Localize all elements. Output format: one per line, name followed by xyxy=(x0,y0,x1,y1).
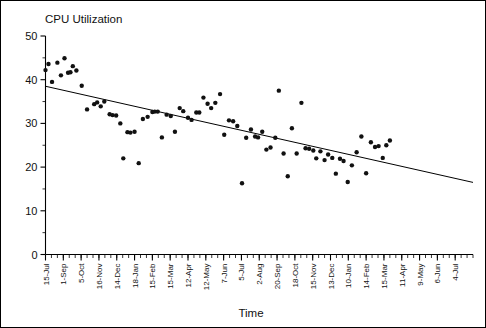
data-point xyxy=(132,130,136,134)
data-point xyxy=(256,135,260,139)
data-point xyxy=(189,118,193,122)
x-tick-label-6-Jun: 6-Jun xyxy=(433,264,442,284)
data-point xyxy=(213,101,217,105)
data-point xyxy=(286,174,290,178)
y-tick-label-50: 50 xyxy=(25,30,37,42)
y-tick-label-40: 40 xyxy=(25,74,37,86)
data-point xyxy=(260,130,264,134)
data-point xyxy=(359,134,363,138)
x-tick-label-15-Mar: 15-Mar xyxy=(380,263,389,289)
x-tick-label-18-Jan: 18-Jan xyxy=(131,264,140,288)
y-tick-label-0: 0 xyxy=(31,249,37,261)
data-point xyxy=(350,163,354,167)
data-point xyxy=(128,130,132,134)
data-point xyxy=(169,114,173,118)
data-point xyxy=(290,126,294,130)
y-tick-label-30: 30 xyxy=(25,117,37,129)
x-tick-label-13-Dec: 13-Dec xyxy=(327,264,336,290)
data-point xyxy=(381,156,385,160)
data-point xyxy=(205,102,209,106)
x-tick-label-14-Feb: 14-Feb xyxy=(362,263,371,289)
chart-title: CPU Utilization xyxy=(45,13,122,25)
data-point xyxy=(156,109,160,113)
data-point xyxy=(164,112,168,116)
x-tick-label-15-Feb: 15-Feb xyxy=(148,263,157,289)
data-point xyxy=(330,156,334,160)
data-point xyxy=(71,64,75,68)
data-point xyxy=(268,145,272,149)
y-tick-label-10: 10 xyxy=(25,205,37,217)
data-point xyxy=(181,109,185,113)
data-point xyxy=(235,124,239,128)
data-point xyxy=(222,133,226,137)
data-point xyxy=(46,62,50,66)
x-tick-label-20-Sep: 20-Sep xyxy=(273,263,282,289)
data-point xyxy=(137,161,141,165)
x-tick-label-1-Sep: 1-Sep xyxy=(59,263,68,285)
data-point xyxy=(334,171,338,175)
x-tick-label-4-Jul: 4-Jul xyxy=(451,263,460,281)
data-point xyxy=(201,95,205,99)
x-tick-label-9-May: 9-May xyxy=(416,264,425,286)
data-point xyxy=(145,115,149,119)
data-point xyxy=(197,110,201,114)
x-tick-label-5-Jul: 5-Jul xyxy=(237,263,246,281)
data-point xyxy=(59,73,63,77)
x-tick-label-15-Mar: 15-Mar xyxy=(166,263,175,289)
data-point xyxy=(231,119,235,123)
data-point xyxy=(43,68,47,72)
data-point xyxy=(346,180,350,184)
data-point xyxy=(102,99,106,103)
y-tick-label-20: 20 xyxy=(25,161,37,173)
data-point xyxy=(80,84,84,88)
x-tick-label-12-May: 12-May xyxy=(202,264,211,291)
chart-figure: CPU Utilization 01020304050 15-Jul1-Sep5… xyxy=(0,0,486,328)
data-point xyxy=(326,152,330,156)
data-point xyxy=(244,136,248,140)
data-point xyxy=(294,151,298,155)
data-point xyxy=(322,158,326,162)
data-point xyxy=(218,92,222,96)
data-point xyxy=(341,159,345,163)
data-point xyxy=(376,144,380,148)
scatter-plot-svg: CPU Utilization 01020304050 15-Jul1-Sep5… xyxy=(1,1,486,328)
x-axis-title: Time xyxy=(238,307,263,319)
x-tick-label-12-Apr: 12-Apr xyxy=(184,263,193,287)
data-point xyxy=(99,104,103,108)
x-tick-label-18-Oct: 18-Oct xyxy=(291,263,300,288)
data-point xyxy=(388,138,392,142)
data-point xyxy=(277,88,281,92)
data-point xyxy=(62,56,66,60)
data-point xyxy=(240,181,244,185)
x-tick-label-10-Jan: 10-Jan xyxy=(344,264,353,288)
data-point xyxy=(227,118,231,122)
x-tick-label-14-Dec: 14-Dec xyxy=(113,264,122,290)
data-point xyxy=(114,113,118,117)
data-point xyxy=(311,148,315,152)
data-point xyxy=(121,156,125,160)
x-tick-label-5-Oct: 5-Oct xyxy=(77,263,86,283)
data-point xyxy=(299,101,303,105)
data-point xyxy=(177,106,181,110)
data-point xyxy=(264,147,268,151)
x-tick-label-7-Jun: 7-Jun xyxy=(220,264,229,284)
x-tick-label-15-Nov: 15-Nov xyxy=(309,264,318,290)
data-point xyxy=(74,68,78,72)
data-point xyxy=(273,136,277,140)
x-tick-label-16-Nov: 16-Nov xyxy=(95,264,104,290)
data-point xyxy=(50,80,54,84)
data-point xyxy=(118,121,122,125)
x-tick-label-15-Jul: 15-Jul xyxy=(42,263,51,285)
data-point xyxy=(384,143,388,147)
x-tick-label-2-Aug: 2-Aug xyxy=(255,264,264,285)
data-point xyxy=(55,60,59,64)
data-point xyxy=(307,147,311,151)
data-point xyxy=(95,100,99,104)
data-point xyxy=(354,150,358,154)
data-point xyxy=(364,171,368,175)
data-point xyxy=(68,70,72,74)
data-point xyxy=(160,135,164,139)
x-tick-label-11-Apr: 11-Apr xyxy=(398,263,407,287)
data-point xyxy=(314,156,318,160)
data-point xyxy=(369,140,373,144)
